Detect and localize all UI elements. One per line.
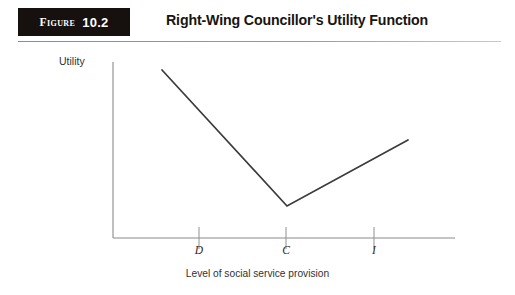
x-tick-label-c: C [282,244,290,256]
x-tick-label-i: I [372,244,376,256]
figure-title: Right-Wing Councillor's Utility Function [166,12,428,28]
chart-plot-area: Utility D C I Level of social service pr… [0,46,515,295]
x-axis-label: Level of social service provision [0,268,515,279]
x-tick-label-d: D [195,244,203,256]
figure-badge-number: 10.2 [82,15,108,30]
utility-curve-line [162,70,408,206]
chart-svg [0,46,515,295]
figure-badge-word: Figure [40,16,76,28]
header-divider [18,41,501,42]
figure-number-badge: Figure 10.2 [18,8,130,36]
figure-header: Figure 10.2 Right-Wing Councillor's Util… [0,0,515,46]
